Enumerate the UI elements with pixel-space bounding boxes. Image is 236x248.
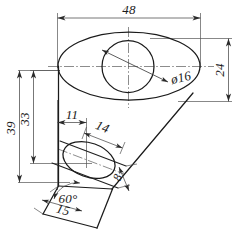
dim-60-label: 60° xyxy=(58,191,77,206)
engineering-drawing-svg: 48 24 ø16 39 33 11 xyxy=(0,0,236,248)
dim-hole-leader-line xyxy=(102,50,168,82)
base-edge-bottom xyxy=(43,214,97,228)
dimension-hole-diameter: ø16 xyxy=(102,50,193,87)
right-silhouette-edge xyxy=(112,93,193,189)
technical-drawing-canvas: 48 24 ø16 39 33 11 xyxy=(0,0,236,248)
base-edge-right xyxy=(97,189,113,228)
large-ellipse xyxy=(58,32,200,100)
dim-14-line xyxy=(84,133,123,148)
dim-39-label: 39 xyxy=(3,121,18,136)
base-edge-top xyxy=(59,186,113,189)
dimension-48: 48 xyxy=(58,2,201,18)
extension-lines xyxy=(18,13,232,190)
dim-14-label: 14 xyxy=(94,117,112,136)
dimension-11: 11 xyxy=(58,107,87,123)
dim-24-label: 24 xyxy=(212,63,227,77)
dim-11-label: 11 xyxy=(66,107,79,122)
dimension-24: 24 xyxy=(212,39,229,102)
dim-33-label: 33 xyxy=(17,112,32,127)
dim-48-label: 48 xyxy=(122,2,136,17)
